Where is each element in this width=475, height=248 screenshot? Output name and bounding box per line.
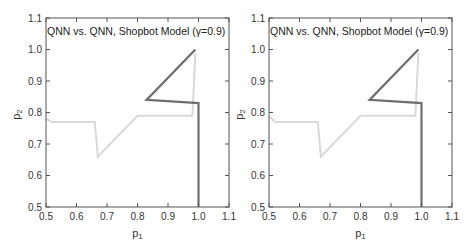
y-axis-label: p2 [10,109,24,120]
dark-trajectory-line [370,50,422,208]
x-tick-label: 0.5 [262,211,276,222]
y-tick-label: 1.1 [28,13,42,24]
x-tick-label: 0.9 [384,211,398,222]
x-tick-label: 0.8 [354,211,368,222]
y-tick-label: 0.8 [251,107,265,118]
x-axis-label: p1 [355,227,366,241]
x-axis-label: p1 [132,227,143,241]
y-axis-label: p2 [233,109,247,120]
chart-panel-left: 0.50.60.70.80.91.01.10.50.60.70.80.91.01… [0,0,237,248]
y-tick-label: 0.7 [28,139,42,150]
x-tick-label: 0.6 [293,211,307,222]
y-tick-label: 0.5 [28,202,42,213]
y-tick-label: 1.1 [251,13,265,24]
y-tick-label: 1.0 [251,44,265,55]
x-tick-label: 1.0 [192,211,206,222]
light-trajectory-line [269,53,418,157]
x-tick-label: 0.7 [323,211,337,222]
light-trajectory-line [46,53,195,157]
chart-title: QNN vs. QNN, Shopbot Model (γ=0.9) [47,25,225,37]
chart-title: QNN vs. QNN, Shopbot Model (γ=0.9) [270,25,448,37]
line-chart-right: 0.50.60.70.80.91.01.10.50.60.70.80.91.01… [223,0,475,248]
plot-frame [46,18,229,207]
x-tick-label: 0.8 [131,211,145,222]
x-tick-label: 0.5 [39,211,53,222]
x-tick-label: 1.0 [415,211,429,222]
y-tick-label: 0.7 [251,139,265,150]
dark-trajectory-line [147,50,199,208]
line-chart-left: 0.50.60.70.80.91.01.10.50.60.70.80.91.01… [0,0,237,248]
y-tick-label: 0.9 [28,76,42,87]
x-tick-label: 0.9 [161,211,175,222]
y-tick-label: 0.9 [251,76,265,87]
y-tick-label: 0.6 [28,170,42,181]
chart-panel-right: 0.50.60.70.80.91.01.10.50.60.70.80.91.01… [223,0,460,248]
x-tick-label: 0.7 [100,211,114,222]
x-tick-label: 1.1 [445,211,459,222]
y-tick-label: 0.6 [251,170,265,181]
y-tick-label: 1.0 [28,44,42,55]
x-tick-label: 0.6 [70,211,84,222]
y-tick-label: 0.8 [28,107,42,118]
y-tick-label: 0.5 [251,202,265,213]
plot-frame [269,18,452,207]
